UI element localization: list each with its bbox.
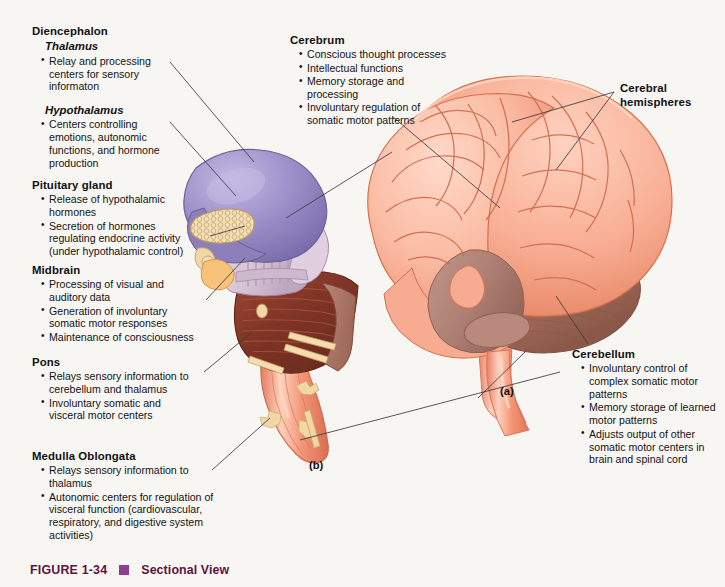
- callout-bullets: Centers controlling emotions, autonomic …: [32, 118, 184, 169]
- callout-pons: Pons Relays sensory information to cereb…: [32, 355, 192, 423]
- bullet-item: Memory storage and processing: [299, 75, 450, 101]
- callout-heading: Diencephalon: [32, 24, 182, 38]
- bullet-item: Adjusts output of other somatic motor ce…: [581, 428, 718, 467]
- callout-subheading: Thalamus: [32, 39, 182, 53]
- bullet-item: Processing of visual and auditory data: [41, 278, 202, 304]
- callout-bullets: Conscious thought processes Intellectual…: [290, 48, 450, 127]
- callout-bullets: Relays sensory information to cerebellum…: [32, 370, 192, 422]
- callout-cerebral-hemispheres: Cerebral hemispheres: [620, 81, 720, 111]
- callout-bullets: Relay and processing centers for sensory…: [32, 55, 182, 94]
- callout-heading: Midbrain: [32, 263, 202, 277]
- callout-pituitary-gland: Pituitary gland Release of hypothalamic …: [32, 178, 204, 259]
- callout-bullets: Involuntary control of complex somatic m…: [572, 362, 718, 466]
- bullet-item: Relay and processing centers for sensory…: [41, 55, 182, 94]
- bullet-item: Involuntary somatic and visceral motor c…: [41, 397, 192, 423]
- callout-midbrain: Midbrain Processing of visual and audito…: [32, 263, 202, 344]
- bullet-item: Generation of involuntary somatic motor …: [41, 305, 202, 331]
- figure-container: Diencephalon Thalamus Relay and processi…: [0, 0, 725, 587]
- panel-label-b: (b): [309, 459, 323, 471]
- figure-number: FIGURE 1-34: [30, 563, 107, 577]
- bullet-item: Involuntary control of complex somatic m…: [581, 362, 718, 401]
- bullet-item: Memory storage of learned motor patterns: [581, 401, 718, 427]
- callout-heading: Pituitary gland: [32, 178, 204, 192]
- brainstem-sectional: [184, 149, 376, 463]
- callout-hypothalamus: Hypothalamus Centers controlling emotion…: [32, 103, 184, 170]
- figure-title: Sectional View: [141, 563, 229, 577]
- callout-bullets: Release of hypothalamic hormones Secreti…: [32, 193, 204, 258]
- bullet-item: Maintenance of consciousness: [41, 331, 202, 344]
- bullet-item: Secretion of hormones regulating endocri…: [41, 220, 204, 259]
- callout-heading: Cerebral hemispheres: [620, 81, 720, 110]
- bullet-item: Involuntary regulation of somatic motor …: [299, 101, 450, 127]
- callout-subheading: Hypothalamus: [32, 103, 184, 117]
- callout-heading: Cerebrum: [290, 33, 450, 47]
- callout-heading: Pons: [32, 355, 192, 369]
- bullet-item: Intellectual functions: [299, 62, 450, 75]
- callout-diencephalon: Diencephalon Thalamus Relay and processi…: [32, 24, 182, 94]
- callout-medulla-oblongata: Medulla Oblongata Relays sensory informa…: [32, 449, 214, 543]
- bullet-item: Autonomic centers for regulation of visc…: [41, 491, 214, 542]
- bullet-item: Relays sensory information to thalamus: [41, 464, 214, 490]
- callout-heading: Cerebellum: [572, 347, 718, 361]
- callout-heading: Medulla Oblongata: [32, 449, 214, 463]
- callout-cerebellum: Cerebellum Involuntary control of comple…: [572, 347, 718, 467]
- bullet-item: Relays sensory information to cerebellum…: [41, 370, 192, 396]
- caption-square-icon: [119, 565, 129, 575]
- bullet-item: Conscious thought processes: [299, 48, 450, 61]
- callout-bullets: Relays sensory information to thalamus A…: [32, 464, 214, 542]
- callout-bullets: Processing of visual and auditory data G…: [32, 278, 202, 343]
- figure-caption: FIGURE 1-34 Sectional View: [30, 563, 229, 577]
- bullet-item: Centers controlling emotions, autonomic …: [41, 118, 184, 169]
- panel-label-a: (a): [500, 385, 514, 397]
- callout-cerebrum: Cerebrum Conscious thought processes Int…: [290, 33, 450, 128]
- bullet-item: Release of hypothalamic hormones: [41, 193, 204, 219]
